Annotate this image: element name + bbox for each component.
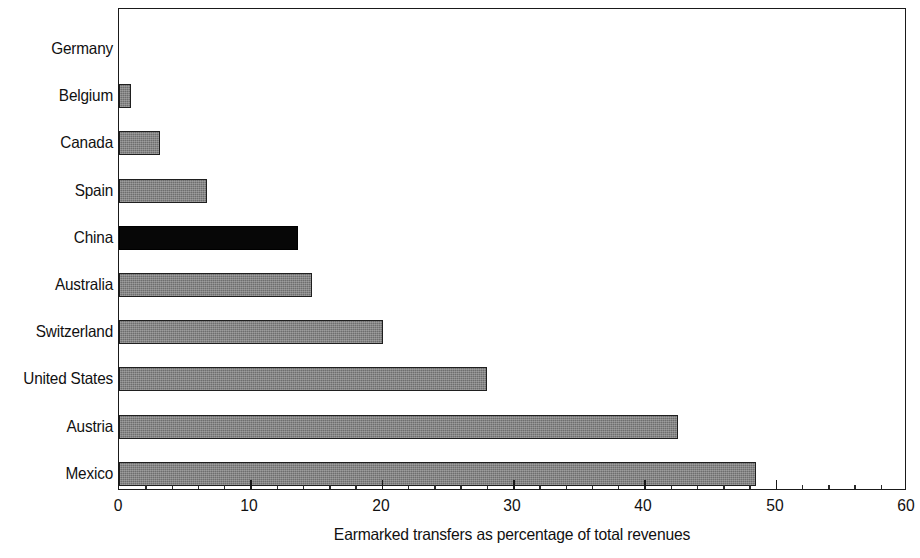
- minor-tick-54: [828, 485, 829, 489]
- plot-area: [118, 8, 906, 490]
- minor-tick-8: [224, 485, 225, 489]
- category-label-canada: Canada: [8, 133, 113, 151]
- x-tick-label-20: 20: [353, 496, 408, 516]
- category-label-austria: Austria: [8, 417, 113, 435]
- category-label-spain: Spain: [8, 181, 113, 199]
- minor-tick-58: [881, 485, 882, 489]
- bar-australia: [119, 273, 312, 297]
- minor-tick-12: [277, 485, 278, 489]
- minor-tick-18: [355, 485, 356, 489]
- minor-tick-48: [749, 485, 750, 489]
- x-axis-title: Earmarked transfers as percentage of tot…: [138, 524, 887, 544]
- minor-tick-32: [539, 485, 540, 489]
- minor-tick-38: [618, 485, 619, 489]
- category-label-germany: Germany: [8, 39, 113, 57]
- minor-tick-2: [145, 485, 146, 489]
- minor-tick-22: [408, 485, 409, 489]
- bar-chart-figure: GermanyBelgiumCanadaSpainChinaAustraliaS…: [0, 0, 920, 558]
- bar-belgium: [119, 84, 131, 108]
- x-tick-label-10: 10: [222, 496, 277, 516]
- minor-tick-6: [198, 485, 199, 489]
- minor-tick-52: [802, 485, 803, 489]
- bar-switzerland: [119, 320, 383, 344]
- category-label-switzerland: Switzerland: [8, 322, 113, 340]
- bar-austria: [119, 415, 678, 439]
- category-axis-labels: GermanyBelgiumCanadaSpainChinaAustraliaS…: [0, 0, 113, 558]
- minor-tick-46: [723, 485, 724, 489]
- minor-tick-16: [329, 485, 330, 489]
- category-label-china: China: [8, 228, 113, 246]
- minor-tick-36: [592, 485, 593, 489]
- major-tick-40: [644, 480, 646, 489]
- minor-tick-44: [697, 485, 698, 489]
- minor-tick-56: [854, 485, 855, 489]
- bar-mexico: [119, 462, 756, 486]
- x-tick-label-0: 0: [90, 496, 145, 516]
- minor-tick-28: [487, 485, 488, 489]
- bar-china: [119, 226, 298, 250]
- minor-tick-4: [172, 485, 173, 489]
- category-label-united-states: United States: [8, 369, 113, 387]
- x-tick-label-60: 60: [878, 496, 920, 516]
- x-tick-label-30: 30: [484, 496, 539, 516]
- major-tick-30: [513, 480, 515, 489]
- category-label-australia: Australia: [8, 275, 113, 293]
- bar-united-states: [119, 367, 487, 391]
- minor-tick-42: [671, 485, 672, 489]
- minor-tick-34: [566, 485, 567, 489]
- x-tick-label-50: 50: [747, 496, 802, 516]
- bar-canada: [119, 131, 160, 155]
- major-tick-10: [250, 480, 252, 489]
- x-tick-label-40: 40: [616, 496, 671, 516]
- category-label-belgium: Belgium: [8, 86, 113, 104]
- bar-spain: [119, 179, 207, 203]
- category-label-mexico: Mexico: [8, 464, 113, 482]
- minor-tick-24: [434, 485, 435, 489]
- major-tick-50: [776, 480, 778, 489]
- x-axis-tick-labels: 0102030405060: [0, 496, 920, 522]
- minor-tick-14: [303, 485, 304, 489]
- minor-tick-26: [460, 485, 461, 489]
- major-tick-20: [382, 480, 384, 489]
